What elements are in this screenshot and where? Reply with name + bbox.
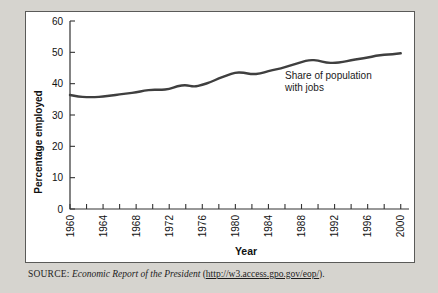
ticks-group <box>70 21 401 209</box>
x-tick-label: 1972 <box>164 215 175 238</box>
x-tick-label: 1976 <box>197 215 208 238</box>
figure-panel: 0102030405060 19601964196819721976198019… <box>25 11 415 263</box>
y-axis-label: Percentage employed <box>33 90 44 193</box>
annotation-group: Share of populationwith jobs <box>284 70 372 93</box>
source-url-link[interactable]: http://w3.access.gpo.gov/eop/ <box>206 269 319 279</box>
x-tick-label: 1996 <box>362 215 373 238</box>
x-tick-label: 1984 <box>263 215 274 238</box>
x-tick-label: 1988 <box>296 215 307 238</box>
x-tick-labels: 1960196419681972197619801984198819921996… <box>65 215 407 238</box>
y-tick-label: 50 <box>52 47 64 58</box>
x-axis-label: Year <box>235 245 257 257</box>
x-tick-label: 1980 <box>230 215 241 238</box>
y-tick-label: 20 <box>52 141 64 152</box>
y-tick-label: 40 <box>52 78 64 89</box>
y-tick-labels: 0102030405060 <box>52 16 64 215</box>
source-title: Economic Report of the President <box>72 269 200 279</box>
y-tick-label: 10 <box>52 172 64 183</box>
y-tick-label: 0 <box>57 204 63 215</box>
x-tick-label: 1960 <box>65 215 76 238</box>
annotation-line-1: Share of population <box>285 70 372 81</box>
source-close-paren: ). <box>319 269 325 279</box>
source-caption: SOURCE: Economic Report of the President… <box>28 269 325 279</box>
source-kicker: SOURCE: <box>28 269 70 279</box>
y-tick-label: 60 <box>52 16 64 27</box>
x-tick-label: 1964 <box>98 215 109 238</box>
x-tick-label: 1968 <box>131 215 142 238</box>
chart-plot: 0102030405060 19601964196819721976198019… <box>26 12 413 261</box>
annotation-line-2: with jobs <box>284 82 324 93</box>
axes-group <box>70 21 409 209</box>
y-tick-label: 30 <box>52 110 64 121</box>
x-tick-label: 1992 <box>329 215 340 238</box>
x-tick-label: 2000 <box>395 215 406 238</box>
